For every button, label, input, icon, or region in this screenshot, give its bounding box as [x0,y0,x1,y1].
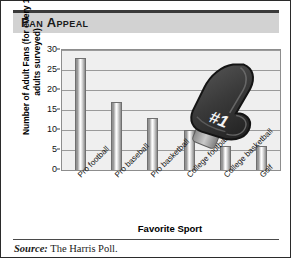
y-axis-tick-mark [57,49,60,50]
chart-figure: Fan Appeal Number of Adult Fans (for eve… [0,0,291,258]
bar [147,118,158,170]
y-axis-tick-mark [57,149,60,150]
y-axis-tick-label: 10 [31,124,57,134]
y-axis-tick-label: 5 [31,144,57,154]
y-axis-tick-label: 0 [31,164,57,174]
gridline [62,50,280,51]
source-label: Source: [14,243,48,254]
y-axis-tick-mark [57,169,60,170]
gridline [62,90,280,91]
x-axis-label: Favorite Sport [61,223,279,234]
bar [111,102,122,170]
y-axis-tick-mark [57,109,60,110]
y-axis-tick-label: 25 [31,64,57,74]
gridline [62,130,280,131]
y-axis-tick-label: 15 [31,104,57,114]
y-axis-tick-mark [57,129,60,130]
gridline [62,110,280,111]
y-axis-tick-mark [57,69,60,70]
source-note: Source: The Harris Poll. [14,243,118,254]
y-axis-tick-mark [57,89,60,90]
y-axis-tick-label: 20 [31,84,57,94]
gridline [62,70,280,71]
y-axis-ticks: 051015202530 [29,49,57,169]
source-rule [13,239,279,240]
bar [75,58,86,170]
source-text: The Harris Poll. [48,243,118,254]
y-axis-tick-label: 30 [31,44,57,54]
